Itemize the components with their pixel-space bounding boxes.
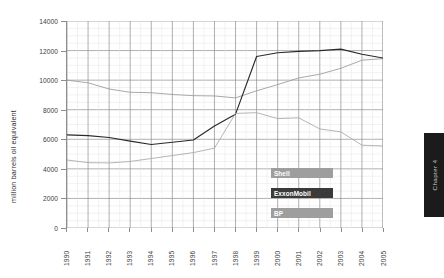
- x-tick-mark: [214, 228, 215, 232]
- x-tick-label: 2000: [274, 236, 281, 266]
- x-tick-mark: [320, 228, 321, 232]
- y-tick-label: 0: [0, 225, 58, 232]
- chart-figure: million barrels oil equivalent 020004000…: [0, 0, 444, 278]
- x-tick-label: 2003: [337, 236, 344, 266]
- y-tick-label: 12000: [0, 47, 58, 54]
- y-tick-label: 8000: [0, 106, 58, 113]
- x-tick-label: 1992: [105, 236, 112, 266]
- chapter-tab-label: Chapter 4: [431, 160, 438, 191]
- x-tick-mark: [172, 228, 173, 232]
- legend-item-exxonmobil[interactable]: ExxonMobil: [271, 188, 333, 198]
- y-tick-label: 10000: [0, 77, 58, 84]
- x-tick-label: 2001: [295, 236, 302, 266]
- chart-page: million barrels oil equivalent 020004000…: [0, 0, 444, 278]
- y-tick-label: 2000: [0, 195, 58, 202]
- legend-label: ExxonMobil: [271, 190, 311, 197]
- y-tick-label: 4000: [0, 165, 58, 172]
- chapter-tab: Chapter 4: [424, 133, 444, 217]
- x-tick-mark: [66, 228, 67, 232]
- x-tick-mark: [87, 228, 88, 232]
- plot-area: [66, 21, 383, 228]
- legend-label: BP: [271, 210, 283, 217]
- x-tick-mark: [362, 228, 363, 232]
- legend-item-bp[interactable]: BP: [271, 208, 333, 218]
- legend-item-shell[interactable]: Shell: [271, 168, 333, 178]
- x-tick-label: 2005: [380, 236, 387, 266]
- x-tick-label: 1991: [84, 236, 91, 266]
- y-tick-label: 14000: [0, 18, 58, 25]
- x-tick-label: 1999: [253, 236, 260, 266]
- x-tick-mark: [129, 228, 130, 232]
- x-tick-mark: [108, 228, 109, 232]
- x-tick-mark: [383, 228, 384, 232]
- legend-label: Shell: [271, 170, 290, 177]
- x-tick-mark: [298, 228, 299, 232]
- x-tick-mark: [235, 228, 236, 232]
- y-axis-title: million barrels oil equivalent: [9, 82, 18, 232]
- x-tick-label: 1993: [126, 236, 133, 266]
- x-tick-mark: [151, 228, 152, 232]
- chart-canvas: [67, 21, 383, 228]
- x-tick-label: 2004: [358, 236, 365, 266]
- x-tick-mark: [256, 228, 257, 232]
- x-tick-mark: [341, 228, 342, 232]
- x-tick-label: 1997: [211, 236, 218, 266]
- x-tick-mark: [193, 228, 194, 232]
- x-tick-label: 1994: [147, 236, 154, 266]
- x-tick-label: 1995: [168, 236, 175, 266]
- x-tick-label: 1998: [232, 236, 239, 266]
- x-tick-label: 1996: [189, 236, 196, 266]
- y-tick-label: 6000: [0, 136, 58, 143]
- x-tick-label: 2002: [316, 236, 323, 266]
- x-tick-label: 1990: [63, 236, 70, 266]
- x-tick-mark: [277, 228, 278, 232]
